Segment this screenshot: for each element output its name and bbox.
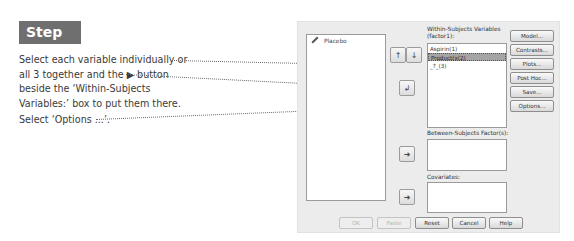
options-button[interactable]: Options... xyxy=(510,100,554,112)
list-item-selected[interactable]: Product(x(2) xyxy=(428,53,506,61)
between-subjects-list[interactable] xyxy=(427,139,507,171)
list-item[interactable]: Placebo xyxy=(311,38,347,44)
arrow-down-icon: ↓ xyxy=(411,51,418,60)
covariates-label: Covariates: xyxy=(427,174,460,180)
move-to-covariates-button[interactable]: ➜ xyxy=(399,189,415,205)
arrow-right-icon: ➜ xyxy=(404,150,411,159)
move-down-button[interactable]: ↓ xyxy=(406,47,422,63)
source-variable-list[interactable]: Placebo xyxy=(306,34,386,201)
instruction-line: Select ‘Options ...’. xyxy=(19,113,110,128)
within-subjects-label-line: (factor1): xyxy=(427,33,501,39)
arrow-up-icon: ↑ xyxy=(395,51,402,60)
arrow-right-icon: ➜ xyxy=(404,193,411,202)
within-subjects-label: Within-Subjects Variables (factor1): xyxy=(427,26,501,39)
pencil-icon xyxy=(311,37,318,44)
repeated-measures-dialog: Placebo Within-Subjects Variables (facto… xyxy=(297,21,560,233)
move-to-within-button[interactable]: ↲ xyxy=(399,80,415,96)
move-up-button[interactable]: ↑ xyxy=(390,47,406,63)
arrow-move-icon: ↲ xyxy=(404,84,411,93)
list-item[interactable]: _?_(3) xyxy=(428,62,506,70)
covariates-list[interactable] xyxy=(427,182,507,213)
instruction-line: Variables:’ box to put them there. xyxy=(19,97,187,112)
instruction-select-options: Select ‘Options ...’. xyxy=(19,113,110,128)
instruction-line: Select each variable individually or xyxy=(19,53,187,68)
step-badge: Step 4: xyxy=(19,21,81,44)
reset-button[interactable]: Reset xyxy=(415,217,449,229)
paste-button[interactable]: Paste xyxy=(377,217,411,229)
move-to-between-button[interactable]: ➜ xyxy=(399,146,415,162)
between-subjects-label: Between-Subjects Factor(s): xyxy=(427,130,508,136)
list-item[interactable]: Aspirin(1) xyxy=(428,45,506,53)
variable-label: Placebo xyxy=(324,38,347,44)
help-button[interactable]: Help xyxy=(489,217,523,229)
within-subjects-label-line: Within-Subjects Variables xyxy=(427,26,501,32)
plots-button[interactable]: Plots... xyxy=(510,58,554,70)
save-button[interactable]: Save... xyxy=(510,86,554,98)
contrasts-button[interactable]: Contrasts... xyxy=(510,44,554,56)
model-button[interactable]: Model... xyxy=(510,30,554,42)
instruction-line: all 3 together and the ▶ button xyxy=(19,68,187,83)
post-hoc-button[interactable]: Post Hoc... xyxy=(510,72,554,84)
ok-button[interactable]: OK xyxy=(339,217,373,229)
within-subjects-list[interactable]: Aspirin(1) Product(x(2) _?_(3) xyxy=(427,43,507,128)
cancel-button[interactable]: Cancel xyxy=(452,217,486,229)
instruction-line: beside the ‘Within-Subjects xyxy=(19,82,187,97)
instruction-select-variables: Select each variable individually or all… xyxy=(19,53,187,111)
